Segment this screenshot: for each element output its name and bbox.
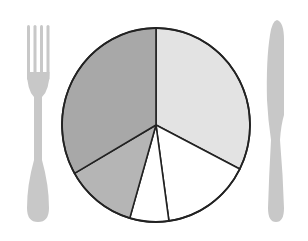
plate-pie-chart-figure (0, 0, 308, 241)
pie-chart (62, 28, 250, 222)
chart-canvas (0, 0, 308, 241)
fork-icon (27, 25, 50, 222)
knife-icon (267, 20, 284, 222)
